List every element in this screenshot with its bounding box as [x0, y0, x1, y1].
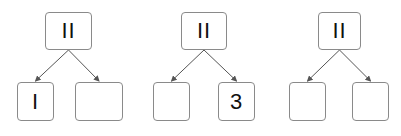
node-label: II	[197, 18, 211, 44]
node-label: I	[32, 89, 39, 115]
tree-1-root-node: II	[45, 12, 92, 50]
edge-arrow-right	[340, 50, 371, 81]
tree-3-root-node: II	[318, 12, 361, 50]
node-label: II	[332, 18, 346, 44]
tree-2-right-child-node: 3	[218, 82, 255, 121]
tree-1-right-child-node	[75, 82, 123, 121]
tree-1-left-child-node: I	[17, 82, 54, 121]
edge-arrow-left	[308, 50, 340, 81]
tree-2-root-node: II	[181, 12, 227, 50]
tree-3-right-child-node	[352, 82, 389, 121]
edge-arrow-left	[172, 50, 205, 81]
edge-arrow-right	[69, 50, 100, 81]
node-label: 3	[230, 89, 243, 115]
edge-arrow-left	[36, 50, 69, 81]
node-label: II	[61, 18, 75, 44]
edge-arrow-right	[204, 50, 237, 81]
tree-2-left-child-node	[153, 82, 190, 121]
tree-3-left-child-node	[289, 82, 326, 121]
